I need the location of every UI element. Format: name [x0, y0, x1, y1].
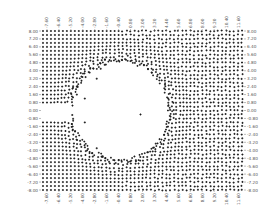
- data-point: [50, 46, 52, 48]
- data-point: [229, 98, 231, 100]
- data-point: [221, 113, 223, 115]
- data-point: [237, 62, 239, 64]
- data-point: [121, 34, 123, 36]
- data-point: [189, 54, 191, 56]
- data-point: [214, 157, 216, 159]
- data-point: [173, 166, 175, 168]
- data-point: [167, 146, 169, 148]
- data-point: [169, 42, 171, 44]
- data-point: [162, 154, 164, 156]
- data-point: [66, 185, 68, 187]
- tick-label: 3.20: [152, 18, 157, 28]
- data-point: [221, 186, 223, 188]
- data-point: [201, 110, 203, 112]
- tick-label: 7.20: [29, 36, 39, 41]
- data-point: [217, 130, 219, 132]
- data-point: [221, 145, 223, 147]
- data-point: [189, 138, 191, 140]
- data-point: [233, 46, 235, 48]
- data-point: [193, 149, 195, 151]
- data-point: [137, 65, 139, 67]
- data-point: [213, 34, 215, 36]
- data-point: [237, 105, 239, 107]
- data-point: [193, 138, 195, 140]
- data-point: [209, 157, 211, 159]
- data-point: [175, 86, 177, 88]
- data-point: [146, 42, 148, 44]
- data-point: [160, 143, 162, 145]
- data-point: [175, 106, 177, 108]
- data-point: [62, 145, 64, 147]
- data-point: [170, 54, 172, 56]
- data-point: [142, 170, 144, 172]
- data-point: [80, 72, 82, 74]
- data-point: [202, 174, 204, 176]
- data-point: [82, 38, 84, 40]
- data-point: [232, 145, 234, 147]
- data-point: [113, 167, 115, 169]
- data-point: [221, 90, 223, 92]
- data-point: [162, 143, 164, 145]
- data-point: [177, 50, 179, 52]
- data-point: [162, 147, 164, 149]
- data-point: [241, 189, 243, 191]
- data-point: [229, 38, 231, 40]
- data-point: [152, 150, 154, 152]
- data-point: [110, 30, 112, 32]
- data-point: [225, 181, 227, 183]
- data-point: [162, 57, 164, 59]
- data-point: [86, 181, 88, 183]
- data-point: [241, 154, 243, 156]
- data-point: [78, 38, 80, 40]
- data-point: [178, 90, 180, 92]
- tick-label: -3.20: [247, 140, 258, 145]
- data-point: [50, 181, 52, 183]
- data-point: [221, 157, 223, 159]
- data-point: [98, 185, 100, 187]
- data-point: [213, 101, 215, 103]
- data-point: [113, 56, 115, 58]
- data-point: [42, 82, 44, 84]
- data-point: [110, 171, 112, 173]
- data-point: [214, 54, 216, 56]
- tick-label: -6.40: [247, 172, 258, 177]
- data-point: [165, 38, 167, 40]
- data-point: [62, 142, 64, 144]
- data-point: [106, 38, 108, 40]
- data-point: [181, 78, 183, 80]
- data-point: [233, 137, 235, 139]
- data-point: [46, 34, 48, 36]
- data-point: [237, 66, 239, 68]
- data-point: [197, 90, 199, 92]
- data-point: [42, 129, 44, 131]
- data-point: [217, 110, 219, 112]
- data-point: [173, 181, 175, 183]
- data-point: [46, 121, 48, 123]
- data-point: [66, 62, 68, 64]
- data-point: [170, 142, 172, 144]
- data-point: [213, 165, 215, 167]
- data-point: [121, 30, 123, 32]
- data-point: [197, 185, 199, 187]
- data-point: [85, 143, 87, 145]
- data-point: [85, 166, 87, 168]
- data-point: [197, 94, 199, 96]
- tick-label: -3.20: [27, 140, 38, 145]
- tick-label: 0.00: [29, 108, 39, 113]
- data-point: [197, 173, 199, 175]
- data-point: [221, 109, 223, 111]
- data-point: [217, 161, 219, 163]
- tick-label: 8.00: [247, 29, 257, 34]
- tick-label: 0.80: [29, 100, 39, 105]
- data-point: [78, 162, 80, 164]
- data-point: [150, 57, 152, 59]
- data-point: [217, 77, 219, 79]
- data-point: [233, 161, 235, 163]
- data-point: [237, 42, 239, 44]
- data-point: [105, 174, 107, 176]
- data-point: [165, 58, 167, 60]
- data-point: [221, 61, 223, 63]
- data-point: [182, 46, 184, 48]
- data-point: [77, 83, 79, 85]
- data-point: [189, 109, 191, 111]
